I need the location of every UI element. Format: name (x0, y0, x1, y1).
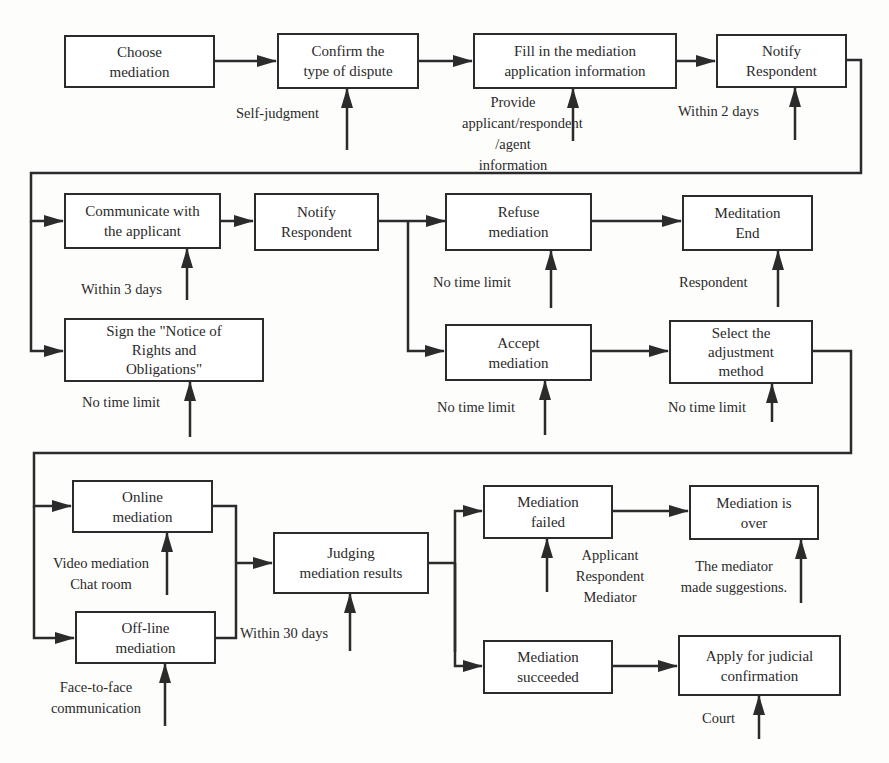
note-within-30-days: Within 30 days (240, 623, 328, 644)
node-apply-judicial-confirmation: Apply for judicial confirmation (678, 635, 841, 696)
node-choose-mediation: Choose mediation (64, 35, 215, 88)
node-mediation-failed: Mediation failed (483, 485, 613, 539)
note-online-methods: Video mediation Chat room (40, 553, 162, 595)
note-within-3-days: Within 3 days (81, 279, 162, 300)
node-mediation-succeeded: Mediation succeeded (483, 640, 613, 694)
note-provide-info: Provide applicant/respondent /agent info… (462, 92, 564, 176)
node-refuse-mediation: Refuse mediation (445, 193, 592, 251)
mediation-flowchart: Choose mediation Confirm the type of dis… (0, 0, 889, 763)
note-self-judgment: Self-judgment (236, 103, 319, 124)
note-select-no-time-limit: No time limit (668, 397, 746, 418)
node-mediation-over: Mediation is over (689, 485, 819, 540)
note-accept-no-time-limit: No time limit (437, 397, 515, 418)
node-select-method: Select the adjustment method (669, 320, 813, 384)
node-notify-respondent-1: Notify Respondent (716, 34, 847, 88)
note-refuse-no-time-limit: No time limit (433, 272, 511, 293)
note-offline-methods: Face-to-face communication (40, 677, 152, 719)
note-sign-no-time-limit: No time limit (82, 392, 160, 413)
node-communicate-applicant: Communicate with the applicant (64, 193, 221, 249)
node-online-mediation: Online mediation (72, 480, 213, 533)
node-accept-mediation: Accept mediation (445, 324, 592, 381)
note-court: Court (702, 708, 735, 729)
node-sign-notice: Sign the "Notice of Rights and Obligatio… (64, 318, 264, 382)
node-notify-respondent-2: Notify Respondent (254, 193, 379, 251)
node-meditation-end: Meditation End (682, 195, 813, 251)
note-mediator-suggestions: The mediator made suggestions. (667, 556, 801, 598)
note-within-2-days: Within 2 days (678, 101, 759, 122)
node-judging-results: Judging mediation results (273, 532, 429, 594)
node-offline-mediation: Off-line mediation (75, 611, 216, 664)
note-failed-parties: Applicant Respondent Mediator (566, 545, 654, 608)
node-confirm-dispute-type: Confirm the type of dispute (277, 33, 419, 89)
note-respondent: Respondent (679, 272, 747, 293)
node-fill-application: Fill in the mediation application inform… (473, 33, 677, 89)
